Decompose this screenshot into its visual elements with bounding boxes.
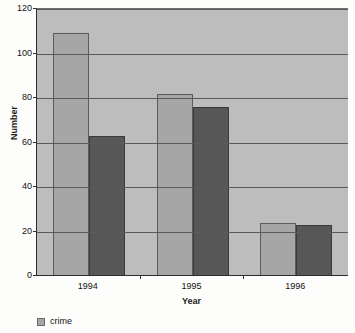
x-tick-mark (140, 275, 141, 279)
y-tick-label: 60 (22, 137, 32, 146)
y-tick-label: 0 (27, 271, 32, 280)
bar-chart: Number 020406080100120 Year crime 199419… (0, 0, 355, 333)
x-tick-label-1994: 1994 (78, 281, 98, 291)
x-axis-title: Year (36, 296, 347, 306)
legend-label: crime (50, 317, 72, 326)
plot-area (36, 8, 348, 276)
y-tick-label: 80 (22, 93, 32, 102)
bar-1996-series-1 (296, 225, 332, 276)
x-tick-mark (243, 275, 244, 279)
bar-1995-series-1 (193, 107, 229, 276)
y-axis-ticks: 020406080100120 (0, 0, 36, 285)
gridline (37, 187, 348, 188)
y-tick-label: 20 (22, 226, 32, 235)
chart-legend: crime (37, 317, 72, 326)
bar-1994-series-1 (89, 136, 125, 276)
x-tick-label-1996: 1996 (285, 281, 305, 291)
y-tick-label: 120 (17, 4, 32, 13)
gridline (37, 98, 348, 99)
y-tick-label: 40 (22, 182, 32, 191)
gridline (37, 54, 348, 55)
gridline (37, 143, 348, 144)
bar-1994-series-0 (53, 33, 89, 276)
bar-1995-series-0 (157, 94, 193, 276)
y-tick-label: 100 (17, 48, 32, 57)
gridline (37, 232, 348, 233)
x-tick-label-1995: 1995 (181, 281, 201, 291)
gridline (37, 9, 348, 10)
legend-swatch-icon (37, 318, 45, 326)
legend-item: crime (37, 317, 72, 326)
